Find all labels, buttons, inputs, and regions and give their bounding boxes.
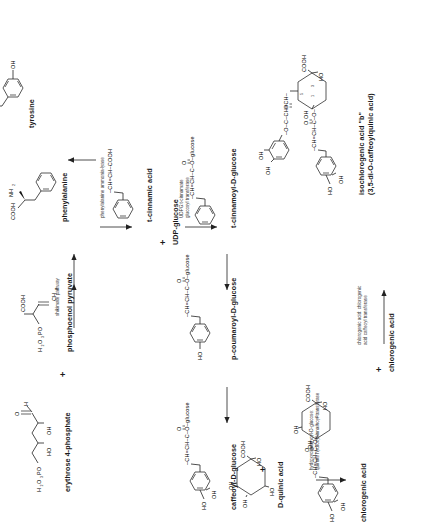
svg-text:COOH: COOH (240, 441, 246, 458)
svg-text:–CH=CH–COOH: –CH=CH–COOH (107, 149, 113, 193)
svg-text:OH: OH (340, 503, 346, 512)
svg-text:OH: OH (242, 500, 248, 509)
svg-text:PO: PO (36, 467, 42, 475)
svg-text:OH: OH (265, 167, 271, 176)
compound-label-tcinnamoylglc: t-cinnamoyl-D-glucose (230, 148, 238, 228)
svg-text:NH: NH (8, 189, 14, 197)
svg-text:O: O (176, 279, 182, 283)
svg-text:OH: OH (303, 111, 309, 120)
svg-text:OH: OH (293, 426, 299, 435)
svg-text:OH: OH (228, 482, 234, 491)
svg-text:HO: HO (46, 448, 52, 457)
svg-text:HO: HO (322, 402, 328, 411)
svg-text:COOH: COOH (305, 385, 311, 402)
svg-text:OH: OH (307, 441, 313, 450)
svg-text:–CH=CH–C–O–glucose: –CH=CH–C–O–glucose (184, 254, 190, 317)
svg-text:H: H (36, 488, 42, 492)
svg-text:5: 5 (300, 93, 304, 95)
arrow-pal (98, 222, 138, 232)
pathway-diagram: COOH NH 2 OH tyrosine COOH N (0, 0, 440, 531)
operator-plus-4: + (374, 372, 379, 382)
compound-label-pcoumaroylglc: p-coumaroyl-D-glucose (230, 278, 238, 360)
svg-text:H: H (37, 348, 43, 352)
svg-text:2: 2 (12, 184, 16, 186)
svg-text:HO: HO (256, 458, 262, 467)
svg-text:–CH=CH–C–O–glucose: –CH=CH–C–O–glucose (189, 136, 195, 199)
svg-text:1: 1 (311, 95, 315, 97)
compound-label-pep: phosphoenol pyruvate (66, 273, 74, 352)
svg-text:4: 4 (315, 416, 319, 418)
operator-plus-2: + (158, 245, 163, 255)
enzyme-label-cacat-line1: chlorogenic acid: chlorogenic (357, 286, 363, 345)
svg-text:CH: CH (51, 293, 57, 301)
svg-text:O: O (176, 427, 182, 431)
compound-chlorogenic-acid-2: chlorogenic acid (388, 372, 440, 380)
svg-text:HO: HO (329, 514, 335, 523)
svg-text:OH: OH (46, 427, 52, 436)
svg-text:3: 3 (41, 336, 45, 338)
svg-text:2: 2 (40, 485, 44, 487)
svg-text:2: 2 (41, 345, 45, 347)
svg-text:OH: OH (258, 152, 264, 161)
arrow-phenylalanine-to-tyrosine (62, 155, 102, 165)
enzyme-label-cacat-line2: acid caffeoyl transferase (363, 295, 369, 345)
arrow-caffeoyl-transferase (379, 286, 393, 346)
svg-text:COOH: COOH (20, 295, 26, 312)
svg-text:O: O (37, 340, 43, 344)
svg-text:–CH=CH–C–O–glucose: –CH=CH–C–O–glucose (184, 402, 190, 465)
compound-label-dquinic: D-quinic acid (277, 462, 285, 508)
svg-text:2: 2 (55, 288, 59, 290)
svg-text:HO: HO (269, 488, 275, 497)
svg-text:HO: HO (197, 352, 203, 361)
svg-text:O: O (14, 412, 20, 416)
svg-text:1: 1 (315, 424, 319, 426)
svg-text:–O–C–CH=CH–: –O–C–CH=CH– (283, 93, 289, 135)
svg-text:3: 3 (40, 476, 44, 478)
svg-text:O: O (36, 480, 42, 484)
svg-text:COOH: COOH (10, 203, 16, 220)
svg-text:PO: PO (37, 327, 43, 335)
compound-label-isochlorogenic-synonym: (3,5-di-O-caffeoylquinic acid) (367, 93, 375, 195)
compound-label-tcinnamic: t-cinnamic acid (146, 168, 154, 222)
svg-text:COOH: COOH (301, 55, 307, 72)
svg-text:3: 3 (311, 85, 315, 87)
compound-label-phenylalanine: phenylalanine (61, 173, 69, 222)
svg-text:O: O (303, 121, 309, 125)
compound-label-erythrose4p: erythrose 4-phosphate (64, 412, 72, 492)
svg-text:OH: OH (10, 61, 16, 70)
svg-text:O: O (181, 161, 187, 165)
svg-text:OH: OH (211, 491, 217, 500)
svg-text:–CH=CH–C–O–: –CH=CH–C–O– (311, 109, 317, 151)
svg-text:HO: HO (318, 73, 324, 82)
compound-label-chlorogenic: chlorogenic acid (360, 463, 368, 522)
svg-text:OH: OH (338, 176, 344, 185)
svg-text:HO: HO (327, 187, 333, 196)
svg-text:H: H (23, 402, 29, 406)
svg-text:HO: HO (201, 502, 207, 511)
